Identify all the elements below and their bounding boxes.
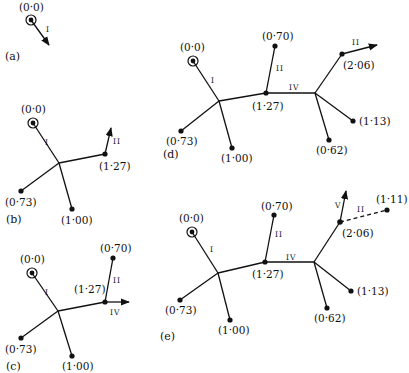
- node-label-206: (2·06): [343, 59, 375, 71]
- edge: [21, 163, 59, 191]
- node-label-100: (1·00): [61, 214, 93, 226]
- node-111: [384, 207, 389, 212]
- node-label-073: (0·73): [5, 196, 37, 208]
- node-label-073: (0·73): [5, 343, 37, 355]
- edge-label-iv: IV: [289, 83, 299, 92]
- root-label: (0·0): [21, 103, 46, 115]
- edge: [58, 302, 105, 311]
- edge-i: [192, 232, 218, 273]
- node-113: [350, 118, 355, 123]
- node-label-100: (1·00): [221, 152, 253, 164]
- node-label-100: (1·00): [218, 324, 250, 336]
- node-label-113: (1·13): [357, 285, 389, 297]
- panel-label-c: (c): [6, 360, 21, 373]
- panel-b: (0·0) I II (1·27) (0·73) (1·00) (b): [5, 103, 131, 226]
- node-073: [18, 188, 23, 193]
- node-label-073: (0·73): [165, 304, 197, 316]
- node-062: [324, 305, 329, 310]
- edge: [315, 93, 329, 140]
- arrow-ii: [105, 128, 111, 154]
- node-label-062: (0·62): [316, 144, 348, 156]
- panel-label-e: (e): [160, 330, 175, 343]
- edge-ii: [105, 258, 113, 302]
- edge: [314, 262, 327, 308]
- node-100: [69, 353, 74, 358]
- node-073: [178, 128, 183, 133]
- node-label-206: (2·06): [342, 227, 374, 239]
- node-062: [326, 137, 331, 142]
- node-label-073: (0·73): [166, 135, 198, 147]
- edge-label-v: V: [334, 201, 341, 210]
- node-113: [348, 288, 353, 293]
- panel-label-d: (d): [163, 148, 179, 161]
- edge-label-iv: IV: [286, 253, 296, 262]
- edge-label-i: I: [210, 245, 214, 254]
- node-label-113: (1·13): [359, 115, 391, 127]
- panel-a: (0·0) I (a): [5, 1, 50, 63]
- node-100: [227, 317, 232, 322]
- edge: [314, 262, 351, 291]
- node-073: [18, 335, 23, 340]
- panel-label-a: (a): [5, 50, 20, 63]
- root-label: (0·0): [180, 41, 205, 53]
- node-070: [272, 43, 277, 48]
- edge: [315, 93, 353, 121]
- node-label-070: (0·70): [262, 30, 294, 42]
- edge-label-i: I: [45, 288, 49, 297]
- edge-label-ii: II: [113, 137, 121, 146]
- node-label-127: (1·27): [252, 100, 284, 112]
- edge: [218, 273, 230, 320]
- edge-label-i: I: [45, 138, 49, 147]
- edge: [314, 222, 340, 262]
- panel-label-b: (b): [6, 213, 22, 226]
- node-label-070: (0·70): [100, 242, 132, 254]
- edge: [181, 101, 219, 131]
- edge-label-ii: II: [275, 230, 283, 239]
- edge-label-ii-2: II: [357, 205, 365, 214]
- node-070: [110, 255, 115, 260]
- node-073: [177, 297, 182, 302]
- node-label-127: (1·27): [99, 160, 131, 172]
- node-label-100: (1·00): [62, 360, 94, 372]
- node-100: [69, 206, 74, 211]
- edge: [58, 311, 72, 356]
- node-label-062: (0·62): [314, 312, 346, 324]
- edge: [180, 273, 218, 300]
- node-070: [271, 212, 276, 217]
- root-label: (0·0): [19, 1, 44, 13]
- edge: [315, 54, 342, 93]
- panel-c: (0·0) I (1·27) (0·70) II IV (0·73) (1·00…: [5, 242, 132, 373]
- edge-label-ii: II: [276, 64, 284, 73]
- root-label: (0·0): [20, 253, 45, 265]
- edge: [219, 101, 232, 148]
- node-label-070: (0·70): [261, 200, 293, 212]
- edge-label-ii-2: II: [352, 38, 360, 47]
- panel-d: (0·0) I (1·27) (0·70) II IV (2·06) II (1…: [163, 30, 391, 164]
- edge: [21, 311, 58, 338]
- panel-e: (0·0) I (1·27) (0·70) II IV (2·06) V II …: [160, 191, 408, 343]
- node-label-127: (1·27): [252, 268, 284, 280]
- phylogenetic-tree-figure: (0·0) I (a) (0·0) I II (1·27) (0·73) (1·…: [0, 0, 409, 373]
- edge-ii: [265, 215, 274, 262]
- edge-ii: [266, 46, 275, 93]
- edge-label-ii: II: [113, 276, 121, 285]
- root-label: (0·0): [179, 212, 204, 224]
- node-label-127: (1·27): [74, 283, 106, 295]
- edge-label-i: I: [46, 25, 50, 34]
- edge: [59, 163, 72, 209]
- node-100: [229, 145, 234, 150]
- edge-i: [193, 61, 219, 101]
- edge-label-i: I: [211, 76, 215, 85]
- node-label-111: (1·11): [376, 193, 408, 205]
- edge-label-iv: IV: [110, 308, 120, 317]
